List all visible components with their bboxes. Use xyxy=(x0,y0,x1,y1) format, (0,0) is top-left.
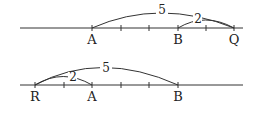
arc-label-2: 2 xyxy=(69,70,77,84)
arc-label-2: 2 xyxy=(194,12,202,26)
point-label-r: R xyxy=(30,89,41,104)
arc-label-5: 5 xyxy=(158,3,166,17)
point-label-q: Q xyxy=(229,32,240,47)
point-label-a: A xyxy=(86,89,97,104)
point-label-a: A xyxy=(86,32,97,47)
number-line-2: 5 2 R A B xyxy=(20,61,243,104)
point-label-b: B xyxy=(173,32,183,47)
point-label-b: B xyxy=(173,89,183,104)
arc-label-5: 5 xyxy=(102,61,110,75)
number-line-diagrams: 5 2 A B Q 5 2 R A B xyxy=(0,0,259,114)
number-line-1: 5 2 A B Q xyxy=(20,3,243,47)
